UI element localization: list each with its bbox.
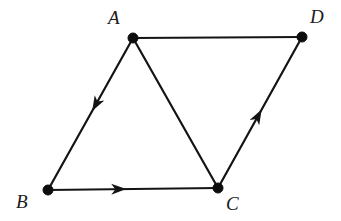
edge-a-d [133, 37, 302, 38]
edges-layer [48, 37, 302, 190]
node-label-d: D [310, 7, 324, 26]
graph-node-c [213, 183, 223, 193]
edge-a-b [48, 38, 133, 190]
node-label-c: C [226, 194, 239, 213]
graph-figure: ABCD [0, 0, 341, 221]
edge-a-c [133, 38, 218, 188]
edge-c-d-arrowhead-icon [250, 109, 262, 125]
graph-node-a [128, 33, 138, 43]
node-label-b: B [16, 192, 28, 211]
arrowheads-layer [92, 95, 261, 195]
graph-node-b [43, 185, 53, 195]
graph-canvas [0, 0, 341, 221]
edge-a-b-arrowhead-icon [92, 95, 104, 111]
node-label-a: A [108, 8, 120, 27]
graph-node-d [297, 32, 307, 42]
edge-b-c [48, 188, 218, 190]
